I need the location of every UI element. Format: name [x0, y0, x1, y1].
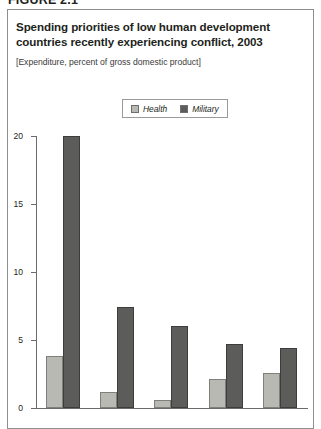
legend-item-health: Health: [131, 104, 167, 114]
bar-group: [154, 136, 188, 408]
bar-group: [46, 136, 80, 408]
plot-area: 05101520: [36, 130, 308, 413]
bar-health: [154, 400, 171, 408]
legend-swatch-health-icon: [131, 105, 139, 113]
bar-group: [100, 136, 134, 408]
bar-series-container: [37, 136, 308, 408]
bar-military: [117, 307, 134, 408]
bar-group: [263, 136, 297, 408]
bar-health: [46, 356, 63, 408]
y-tick: 0: [31, 408, 36, 409]
bar-health: [209, 379, 226, 408]
x-axis-line: [36, 408, 308, 409]
legend-swatch-military-icon: [180, 105, 188, 113]
bar-group: [209, 136, 243, 408]
bar-military: [280, 348, 297, 408]
legend-item-military: Military: [180, 104, 219, 114]
bar-health: [100, 392, 117, 408]
y-tick: 20: [31, 136, 36, 137]
chart-subtitle: [Expenditure, percent of gross domestic …: [16, 57, 304, 68]
y-tick: 10: [31, 272, 36, 273]
y-tick: 15: [31, 204, 36, 205]
y-tick-label: 0: [18, 403, 23, 413]
y-tick-label: 10: [13, 267, 23, 277]
legend-label-health: Health: [143, 104, 167, 114]
bar-health: [263, 373, 280, 408]
figure-number-label: FIGURE 2.1: [8, 0, 78, 7]
chart-legend: Health Military: [122, 99, 228, 118]
bar-military: [63, 136, 80, 408]
y-tick-label: 20: [13, 131, 23, 141]
bar-military: [226, 344, 243, 408]
chart-title: Spending priorities of low human develop…: [16, 20, 304, 49]
y-tick-label: 15: [13, 199, 23, 209]
legend-label-military: Military: [192, 104, 219, 114]
y-tick-label: 5: [18, 335, 23, 345]
y-tick: 5: [31, 340, 36, 341]
bar-military: [171, 326, 188, 408]
